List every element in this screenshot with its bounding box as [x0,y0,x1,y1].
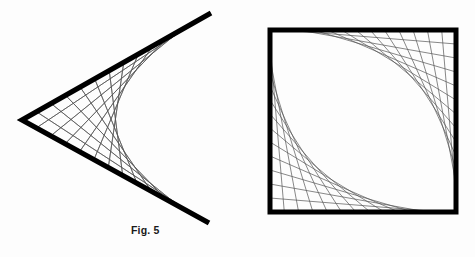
figure-6-string-segment [413,30,456,170]
figure-6-string-segment [299,30,456,58]
figure-6-string-lines [270,30,456,212]
figure-6-panel: Fig. 6 [240,0,475,257]
page-root: Fig. 5 Fig. 6 [0,0,475,257]
figure-6-drawing [0,0,475,257]
figure-6-square-outline [270,30,456,212]
figure-6-string-segment [399,30,456,156]
figure-6-square-frame [270,30,456,212]
figure-6-string-segment [427,30,456,184]
figure-6-string-segment [270,72,313,212]
figure-6-string-segment [270,86,327,212]
figure-6-string-segment [270,184,427,212]
figure-6-string-segment [270,58,299,212]
figure-6-string-segment [384,30,456,142]
figure-6-string-segment [270,100,342,212]
